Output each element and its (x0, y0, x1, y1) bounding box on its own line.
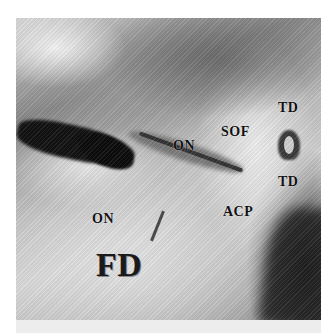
label-acp: ACP (223, 204, 253, 220)
label-on-left: ON (92, 211, 114, 227)
label-td-top: TD (278, 100, 298, 116)
scan-texture (16, 18, 321, 320)
anatomical-photo: TD SOF ON TD ACP ON FD (16, 18, 321, 320)
label-fd: FD (96, 246, 142, 284)
figure-caption-strip (16, 320, 321, 333)
label-on-top: ON (173, 138, 195, 154)
label-sof: SOF (221, 124, 250, 140)
label-td-mid: TD (278, 174, 298, 190)
